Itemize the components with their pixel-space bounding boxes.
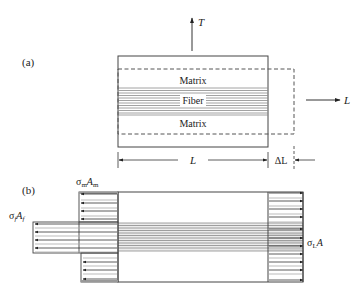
panel-a: (a) T L Matrix Fiber Matrix [22,16,350,147]
delta-length-label: ΔL [275,155,288,166]
composite-load-diagram: (a) T L Matrix Fiber Matrix [0,0,361,298]
fiber-force-block [33,222,118,253]
length-label: L [189,154,196,166]
transverse-axis-label: T [198,16,205,28]
panel-b: (b) σmAm σfAf σLA [9,176,324,282]
fiber-label: Fiber [182,95,204,106]
fiber-shade-b [118,223,303,251]
panel-a-label: (a) [22,56,35,69]
matrix-force-block-bottom [81,253,118,282]
total-force-label: σLA [307,237,324,250]
matrix-top-label: Matrix [179,75,206,86]
matrix-force-block-top [79,192,118,222]
longitudinal-axis-label: L [343,94,350,106]
panel-b-label: (b) [22,184,35,197]
matrix-bottom-label: Matrix [179,118,206,129]
matrix-force-label: σmAm [76,176,99,189]
fiber-force-label: σfAf [9,210,25,223]
dimension-line: L ΔL [118,146,315,170]
